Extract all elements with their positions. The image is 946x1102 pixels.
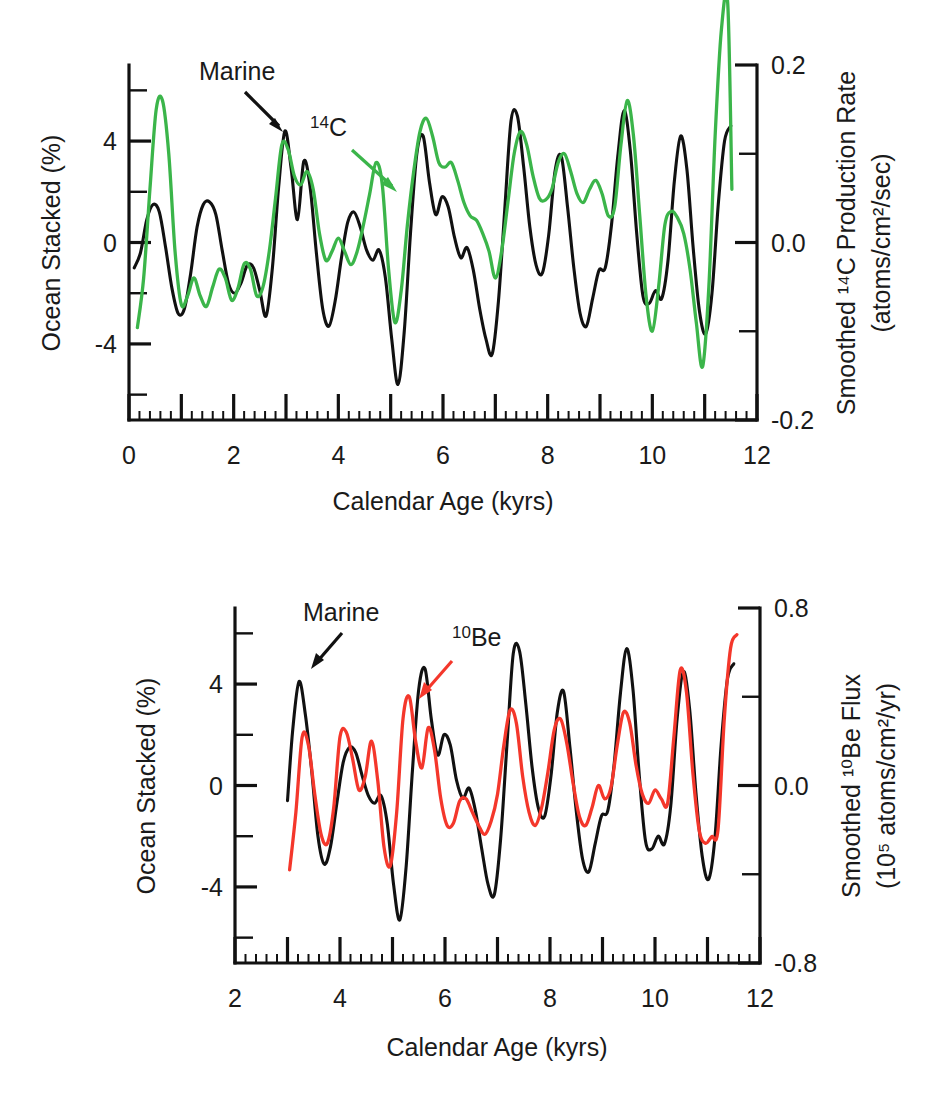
top-right-ticklabel-group: 0.20.0-0.2 [771,51,814,434]
x-ticklabel: 10 [638,441,666,469]
bottom-x-tick-group [235,937,760,963]
y-ticklabel-left: -4 [95,330,117,358]
panel-top-14c: -404 0.20.0-0.2 024681012 Ocean Stacked … [0,0,946,551]
top-annotation-marine-label: Marine [199,57,275,85]
top-annotation-14c-label: 14C [310,113,347,141]
y-ticklabel-right: 0.2 [771,51,806,79]
y-ticklabel-right: -0.8 [774,949,817,977]
y-ticklabel-right: -0.2 [771,406,814,434]
top-left-ticklabel-group: -404 [95,127,117,358]
bottom-right-tick-group [738,608,760,963]
panel-bottom-10be: -404 0.80.0-0.8 24681012 Ocean Stacked (… [0,551,946,1102]
y-ticklabel-left: 4 [103,127,117,155]
top-annotation-marine-arrow [245,92,283,132]
panel-top-svg: -404 0.20.0-0.2 024681012 Ocean Stacked … [0,0,946,551]
y-ticklabel-left: 4 [209,670,223,698]
top-ylabel-right-line1: Smoothed ¹⁴C Production Rate [832,71,860,415]
bottom-ylabel-left: Ocean Stacked (%) [132,678,160,895]
y-ticklabel-left: -4 [201,873,223,901]
panel-bottom-svg: -404 0.80.0-0.8 24681012 Ocean Stacked (… [0,551,946,1102]
y-ticklabel-right: 0.8 [774,594,809,622]
x-ticklabel: 0 [122,441,136,469]
x-ticklabel: 8 [541,441,555,469]
bottom-ylabel-right-line2: (10⁵ atoms/cm²/yr) [872,683,900,889]
series-line-14c [137,0,732,367]
x-ticklabel: 2 [228,984,242,1012]
top-annotation-14c-arrow [352,150,397,192]
y-ticklabel-right: 0.0 [774,772,809,800]
bottom-ylabel-right-line1: Smoothed ¹⁰Be Flux [837,674,865,898]
x-ticklabel: 4 [333,984,347,1012]
top-ylabel-left: Ocean Stacked (%) [37,135,65,352]
y-ticklabel-left: 0 [209,772,223,800]
y-ticklabel-right: 0.0 [771,229,806,257]
top-ylabel-right-line2: (atoms/cm²/sec) [867,153,895,332]
bottom-annotation-10be-label: 10Be [452,623,502,651]
x-ticklabel: 4 [331,441,345,469]
bottom-x-ticklabel-group: 24681012 [228,984,774,1012]
bottom-left-tick-group [235,633,257,937]
bottom-xlabel: Calendar Age (kyrs) [387,1033,608,1061]
top-xlabel: Calendar Age (kyrs) [333,487,554,515]
y-ticklabel-left: 0 [103,229,117,257]
x-ticklabel: 12 [746,984,774,1012]
bottom-right-ticklabel-group: 0.80.0-0.8 [774,594,817,977]
x-ticklabel: 6 [436,441,450,469]
top-right-tick-group [735,65,757,420]
x-ticklabel: 8 [543,984,557,1012]
x-ticklabel: 10 [641,984,669,1012]
top-x-tick-group [129,394,757,420]
bottom-annotation-marine-label: Marine [303,598,379,626]
series-line-marine-bottom [288,643,734,920]
bottom-left-ticklabel-group: -404 [201,670,223,901]
two-panel-timeseries-figure: -404 0.20.0-0.2 024681012 Ocean Stacked … [0,0,946,1102]
x-ticklabel: 2 [227,441,241,469]
top-x-ticklabel-group: 024681012 [122,441,771,469]
x-ticklabel: 6 [438,984,452,1012]
bottom-annotation-marine-arrow [311,633,342,669]
x-ticklabel: 12 [743,441,771,469]
